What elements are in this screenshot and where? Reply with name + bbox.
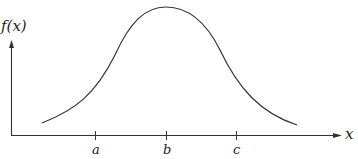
y-axis-arrowhead-icon — [9, 40, 14, 48]
bell-curve — [42, 7, 297, 125]
tick-label-b: b — [163, 142, 171, 157]
x-axis-label: x — [345, 125, 354, 143]
tick-label-c: c — [233, 142, 241, 157]
y-axis-label: f(x) — [0, 17, 27, 35]
bell-curve-diagram: f(x) x a b c — [0, 0, 358, 159]
tick-label-a: a — [92, 142, 100, 157]
x-axis-arrowhead-icon — [333, 133, 342, 138]
